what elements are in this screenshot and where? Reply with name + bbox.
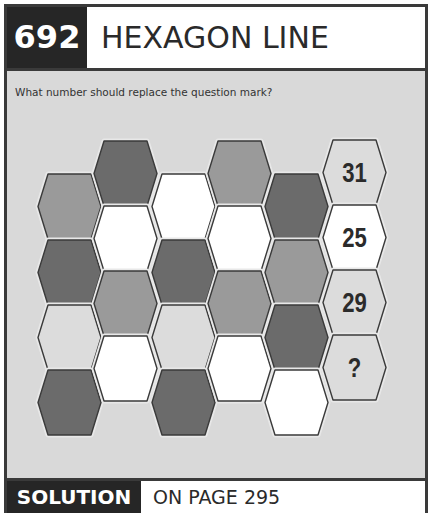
- hexagon-white: [94, 336, 157, 401]
- hex-col2-row3: [94, 271, 157, 336]
- hex-col1-row1: [38, 174, 101, 239]
- hexagon-medium: [208, 271, 271, 336]
- hexagon-dark: [265, 174, 328, 239]
- hex-col4-row4: [208, 336, 271, 401]
- hex-col2-row4: [94, 336, 157, 401]
- answer-hex-3: 29: [323, 270, 386, 335]
- hexagon-dark: [152, 240, 215, 305]
- hexagon-white: [265, 370, 328, 435]
- hex-col3-row3: [152, 305, 215, 370]
- answer-hex-4: ?: [323, 335, 386, 400]
- hex-col4-row1: [208, 141, 271, 206]
- hex-col3-row1: [152, 174, 215, 239]
- hex-col2-row2: [94, 206, 157, 271]
- hexagon-grid: 312529?: [0, 0, 439, 525]
- hexagon-dark: [38, 240, 101, 305]
- question-mark-cell: ?: [348, 353, 362, 383]
- hex-col5-row2: [265, 240, 328, 305]
- hex-col5-row3: [265, 305, 328, 370]
- hexagon-light: [38, 305, 101, 370]
- hexagon-white: [208, 206, 271, 271]
- hex-col3-row4: [152, 370, 215, 435]
- hexagon-white: [152, 174, 215, 239]
- hex-number: 31: [342, 158, 367, 188]
- answer-hex-1: 31: [323, 140, 386, 205]
- hexagon-dark: [152, 370, 215, 435]
- hexagon-medium: [94, 271, 157, 336]
- hex-col1-row4: [38, 370, 101, 435]
- hex-col5-row1: [265, 174, 328, 239]
- hexagon-dark: [94, 141, 157, 206]
- hexagon-light: [152, 305, 215, 370]
- hex-number: 25: [342, 223, 367, 253]
- hex-col1-row2: [38, 240, 101, 305]
- hexagon-dark: [265, 305, 328, 370]
- hexagon-medium: [38, 174, 101, 239]
- hexagon-medium: [208, 141, 271, 206]
- hex-col1-row3: [38, 305, 101, 370]
- hexagon-white: [208, 336, 271, 401]
- hex-col3-row2: [152, 240, 215, 305]
- hex-col4-row2: [208, 206, 271, 271]
- hex-col4-row3: [208, 271, 271, 336]
- hexagon-dark: [38, 370, 101, 435]
- hexagon-medium: [265, 240, 328, 305]
- hex-number: 29: [342, 288, 367, 318]
- hex-col2-row1: [94, 141, 157, 206]
- answer-hex-2: 25: [323, 205, 386, 270]
- hexagon-white: [94, 206, 157, 271]
- hex-col5-row4: [265, 370, 328, 435]
